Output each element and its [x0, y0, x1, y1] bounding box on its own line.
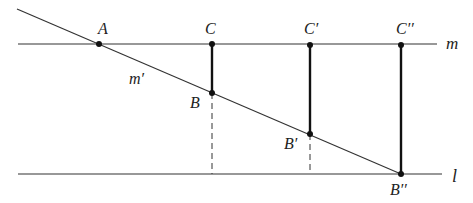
label-A: A [97, 20, 108, 37]
label-l: l [452, 166, 457, 186]
label-B1: B′ [284, 135, 298, 152]
diagram-svg: A C C′ C′′ m m′ B B′ B′′ l [0, 0, 473, 203]
point-B2 [398, 171, 404, 177]
label-B: B [190, 94, 200, 111]
point-C1 [307, 42, 313, 48]
label-B2: B′′ [390, 181, 407, 198]
label-m: m [446, 34, 458, 53]
point-A [96, 41, 102, 47]
label-C: C [205, 20, 216, 37]
label-C2: C′′ [396, 20, 414, 37]
label-m-prime: m′ [129, 70, 145, 87]
geometry-diagram: A C C′ C′′ m m′ B B′ B′′ l [0, 0, 473, 203]
point-B [209, 90, 215, 96]
point-C2 [398, 42, 404, 48]
label-C1: C′ [304, 20, 319, 37]
point-B1 [307, 131, 313, 137]
point-C [209, 41, 215, 47]
